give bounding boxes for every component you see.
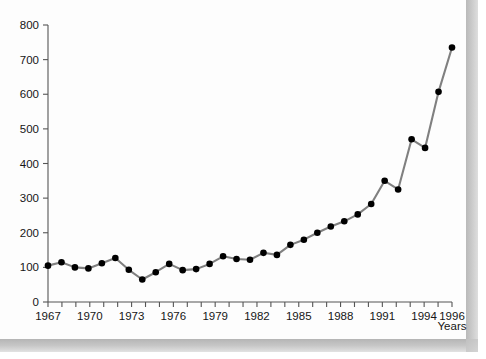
data-point-marker bbox=[449, 44, 456, 51]
data-point-marker bbox=[381, 178, 388, 185]
data-series-markers bbox=[45, 44, 456, 283]
data-point-marker bbox=[126, 267, 133, 274]
x-axis-tick-label: 1979 bbox=[202, 310, 228, 322]
data-point-marker bbox=[328, 223, 335, 230]
data-point-marker bbox=[301, 236, 308, 243]
chart-figure: 0100200300400500600700800 19671970197319… bbox=[0, 0, 486, 359]
x-axis-tick-labels: 1967197019731976197919821985198819911994… bbox=[35, 310, 465, 322]
x-axis-tick-label: 1988 bbox=[328, 310, 354, 322]
x-axis-tick-label: 1967 bbox=[35, 310, 61, 322]
y-axis: 0100200300400500600700800 bbox=[20, 19, 48, 308]
y-axis-ticks bbox=[43, 25, 48, 302]
data-point-marker bbox=[233, 256, 240, 263]
x-axis-tick-label: 1985 bbox=[286, 310, 312, 322]
data-point-marker bbox=[58, 259, 65, 266]
data-series-line bbox=[48, 48, 452, 280]
data-point-marker bbox=[72, 264, 79, 271]
data-point-marker bbox=[287, 242, 294, 249]
data-point-marker bbox=[260, 250, 267, 257]
y-axis-tick-label: 800 bbox=[20, 19, 39, 31]
data-point-marker bbox=[247, 256, 254, 263]
x-axis-tick-label: 1982 bbox=[244, 310, 270, 322]
y-axis-tick-label: 300 bbox=[20, 192, 39, 204]
x-axis-tick-label: 1970 bbox=[77, 310, 103, 322]
y-axis-tick-label: 700 bbox=[20, 54, 39, 66]
data-point-marker bbox=[354, 211, 361, 218]
data-point-marker bbox=[166, 261, 173, 268]
data-point-marker bbox=[368, 201, 375, 208]
data-point-marker bbox=[179, 267, 186, 274]
y-axis-tick-label: 0 bbox=[33, 296, 39, 308]
x-axis-tick-label: 1994 bbox=[411, 310, 437, 322]
data-point-marker bbox=[85, 265, 92, 272]
data-point-marker bbox=[112, 255, 119, 262]
y-axis-tick-labels: 0100200300400500600700800 bbox=[20, 19, 39, 308]
x-axis-tick-label: 1991 bbox=[370, 310, 396, 322]
data-point-marker bbox=[99, 260, 106, 267]
data-point-marker bbox=[314, 229, 321, 236]
line-chart-plot: 0100200300400500600700800 19671970197319… bbox=[0, 0, 486, 359]
data-point-marker bbox=[193, 266, 200, 273]
data-point-marker bbox=[220, 253, 227, 260]
data-point-marker bbox=[408, 136, 415, 143]
data-point-marker bbox=[435, 89, 442, 96]
data-point-marker bbox=[341, 218, 348, 225]
y-axis-tick-label: 100 bbox=[20, 261, 39, 273]
y-axis-tick-label: 200 bbox=[20, 227, 39, 239]
x-axis: 1967197019731976197919821985198819911994… bbox=[35, 302, 465, 322]
data-point-marker bbox=[422, 145, 429, 152]
y-axis-tick-label: 600 bbox=[20, 88, 39, 100]
data-point-marker bbox=[206, 261, 213, 268]
x-axis-title: Years bbox=[438, 320, 467, 332]
y-axis-tick-label: 400 bbox=[20, 158, 39, 170]
x-axis-tick-label: 1976 bbox=[161, 310, 187, 322]
data-point-marker bbox=[274, 252, 281, 259]
y-axis-tick-label: 500 bbox=[20, 123, 39, 135]
data-point-marker bbox=[395, 186, 402, 193]
data-point-marker bbox=[152, 269, 159, 276]
data-point-marker bbox=[45, 262, 52, 269]
data-point-marker bbox=[139, 276, 146, 283]
x-axis-ticks bbox=[48, 302, 452, 307]
x-axis-tick-label: 1973 bbox=[119, 310, 145, 322]
